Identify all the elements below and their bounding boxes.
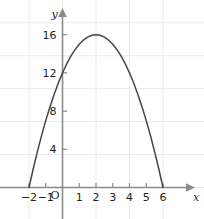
x-tick-label: 6 xyxy=(160,191,167,204)
chart-canvas: −2−1123456481216Oxy xyxy=(0,0,204,219)
origin-label: O xyxy=(50,189,59,202)
x-tick-label: 4 xyxy=(126,191,133,204)
y-tick-label: 12 xyxy=(43,67,57,80)
x-tick-label: 3 xyxy=(109,191,116,204)
parabola-graph: −2−1123456481216Oxy xyxy=(0,0,204,219)
x-axis-label: x xyxy=(193,191,200,204)
x-tick-label: 1 xyxy=(76,191,83,204)
gridlines xyxy=(0,0,204,219)
tick-labels: −2−1123456481216Oxy xyxy=(21,8,200,204)
y-tick-label: 4 xyxy=(50,143,57,156)
x-tick-label: 2 xyxy=(93,191,100,204)
y-tick-label: 8 xyxy=(50,105,57,118)
y-axis-arrowhead xyxy=(58,8,67,17)
x-tick-label: −2 xyxy=(21,191,37,204)
y-tick-label: 16 xyxy=(43,29,57,42)
x-tick-label: 5 xyxy=(143,191,150,204)
y-axis-label: y xyxy=(50,8,58,21)
